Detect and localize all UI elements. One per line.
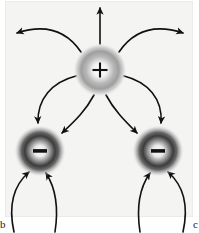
field-line-upper-right: [119, 29, 183, 52]
field-line-bottom-right-b: [168, 172, 185, 232]
field-line-to-left-outer: [38, 76, 76, 123]
field-line-bottom-right-a: [138, 173, 150, 232]
field-line-bottom-left-a: [12, 172, 29, 232]
negative-charge-right: [132, 125, 184, 177]
negative-charge-left: [14, 125, 66, 177]
field-line-to-right-outer: [124, 76, 161, 123]
panel-label-b: b: [0, 219, 6, 230]
positive-charge: [73, 43, 127, 97]
field-line-to-right-inner: [106, 95, 137, 133]
panel-label-c: c: [193, 219, 198, 230]
minus-icon: [151, 149, 165, 153]
field-line-bottom-left-b: [46, 173, 57, 232]
figure-root: b c: [0, 0, 199, 233]
field-line-to-left-inner: [62, 95, 94, 133]
field-line-upper-left: [17, 29, 81, 52]
minus-icon: [33, 149, 47, 153]
field-line-group: [12, 8, 186, 232]
field-lines-svg: [0, 0, 199, 233]
